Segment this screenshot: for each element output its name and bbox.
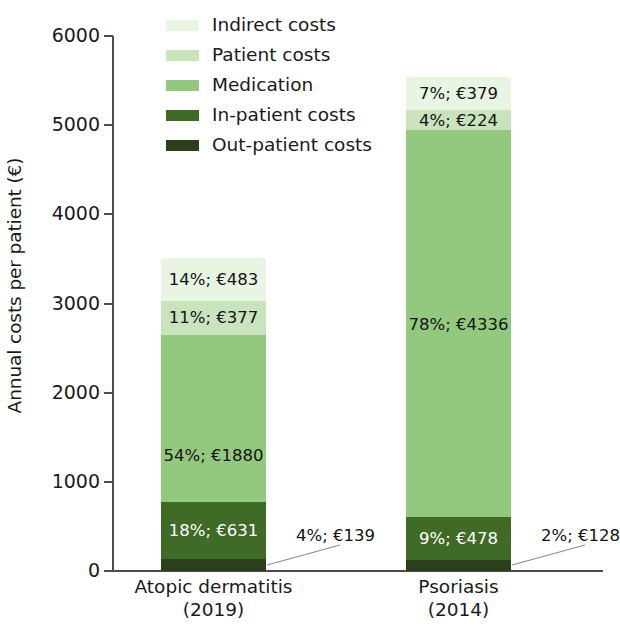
category-name: Psoriasis: [418, 576, 498, 597]
bar-segment[interactable]: 4%; €224: [406, 110, 511, 130]
category-year: (2019): [94, 598, 334, 621]
y-axis-tick-label-text: 2000: [32, 383, 100, 402]
y-axis-tick-label: 3000: [28, 294, 100, 313]
y-axis-tick-label: 4000: [28, 204, 100, 223]
legend-item-label: Patient costs: [212, 45, 330, 65]
bar-segment-callout-label: 2%; €128: [541, 527, 620, 544]
legend-item[interactable]: Medication: [166, 70, 396, 100]
y-axis-tick-label-text: 5000: [32, 115, 100, 134]
legend-item[interactable]: Out-patient costs: [166, 130, 396, 160]
x-axis-category-label: Atopic dermatitis(2019): [94, 575, 334, 621]
category-year: (2014): [339, 598, 579, 621]
y-axis-title: Annual costs per patient (€): [0, 0, 30, 571]
bar-segment[interactable]: 54%; €1880: [161, 335, 266, 503]
legend-item-label: Medication: [212, 75, 313, 95]
bar-segment-label: 18%; €631: [161, 522, 266, 539]
bar-segment-label: 9%; €478: [406, 530, 511, 547]
bar-segment[interactable]: 18%; €631: [161, 502, 266, 558]
bar-segment[interactable]: 78%; €4336: [406, 130, 511, 517]
category-name: Atopic dermatitis: [134, 576, 292, 597]
y-axis-title-text: Annual costs per patient (€): [5, 158, 26, 414]
bar-segment-callout-leader-line: [511, 543, 589, 567]
y-axis-tick-label: 0: [28, 561, 100, 580]
y-axis-tick-label-text: 3000: [32, 294, 100, 313]
y-axis-tick-label: 2000: [28, 383, 100, 402]
legend-color-swatch: [166, 50, 199, 61]
y-axis-tick-label-text: 0: [32, 561, 100, 580]
bar-segment-callout-leader-line: [266, 543, 344, 567]
y-axis-tick-label-text: 4000: [32, 204, 100, 223]
y-axis-tick-label: 5000: [28, 115, 100, 134]
legend-item[interactable]: In-patient costs: [166, 100, 396, 130]
legend-item[interactable]: Patient costs: [166, 40, 396, 70]
x-axis-category-label: Psoriasis(2014): [339, 575, 579, 621]
y-axis-tick-label-text: 6000: [32, 26, 100, 45]
bar-segment-label: 4%; €224: [406, 112, 511, 129]
legend-color-swatch: [166, 80, 199, 91]
legend-color-swatch: [166, 110, 199, 121]
legend-item[interactable]: Indirect costs: [166, 10, 396, 40]
legend-item-label: In-patient costs: [212, 105, 356, 125]
y-axis-tick-label-text: 1000: [32, 472, 100, 491]
bar-segment[interactable]: [406, 560, 511, 571]
legend-item-label: Indirect costs: [212, 15, 336, 35]
chart-legend: Indirect costsPatient costsMedicationIn-…: [166, 10, 396, 160]
bar-segment-label: 11%; €377: [161, 309, 266, 326]
bar-segment[interactable]: 9%; €478: [406, 517, 511, 560]
bar-segment-label: 54%; €1880: [161, 447, 266, 464]
y-axis-tick-label: 1000: [28, 472, 100, 491]
bar-segment[interactable]: 7%; €379: [406, 77, 511, 111]
legend-color-swatch: [166, 20, 199, 31]
y-axis-tick-label: 6000: [28, 26, 100, 45]
legend-item-label: Out-patient costs: [212, 135, 372, 155]
bar-segment[interactable]: 11%; €377: [161, 301, 266, 335]
legend-color-swatch: [166, 140, 199, 151]
bar-segment[interactable]: 14%; €483: [161, 258, 266, 301]
bar-segment-label: 7%; €379: [406, 85, 511, 102]
bar-segment[interactable]: [161, 559, 266, 571]
bar-segment-callout-label: 4%; €139: [296, 527, 375, 544]
bar-segment-label: 78%; €4336: [406, 316, 511, 333]
bar-segment-label: 14%; €483: [161, 271, 266, 288]
